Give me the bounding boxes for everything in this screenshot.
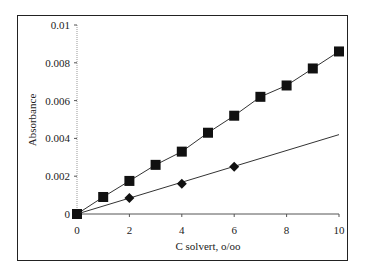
y-tick-label: 0.008	[45, 57, 70, 69]
axes: 00.0020.0040.0060.0080.010246810	[45, 19, 345, 236]
square-marker	[255, 92, 265, 102]
x-tick-label: 0	[74, 224, 80, 236]
square-marker	[229, 111, 239, 121]
y-tick-label: 0.004	[45, 132, 70, 144]
absorbance-chart: 00.0020.0040.0060.0080.010246810 Absorba…	[0, 0, 365, 277]
square-marker	[203, 128, 213, 138]
square-marker	[177, 147, 187, 157]
square-marker	[282, 80, 292, 90]
x-axis-label: C solvert, o/oo	[175, 240, 241, 252]
data-series	[72, 46, 344, 219]
square-marker	[334, 46, 344, 56]
y-tick-label: 0.002	[45, 170, 70, 182]
x-tick-label: 8	[284, 224, 290, 236]
diamond-marker	[124, 193, 134, 203]
y-axis-label: Absorbance	[26, 94, 38, 147]
diamond-marker	[177, 179, 187, 189]
square-marker	[98, 192, 108, 202]
x-tick-label: 4	[179, 224, 185, 236]
y-tick-label: 0.01	[51, 19, 70, 31]
y-tick-label: 0	[65, 208, 71, 220]
x-tick-label: 6	[231, 224, 237, 236]
x-tick-label: 2	[127, 224, 133, 236]
square-marker	[124, 176, 134, 186]
x-tick-label: 10	[334, 224, 346, 236]
diamond-marker	[229, 162, 239, 172]
square-marker	[151, 160, 161, 170]
square-marker	[308, 63, 318, 73]
diamonds-line	[77, 135, 339, 214]
y-tick-label: 0.006	[45, 95, 70, 107]
